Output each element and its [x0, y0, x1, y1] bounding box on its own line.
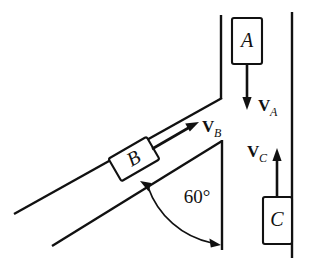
- velocity-vector-c-arrowhead: [272, 148, 281, 161]
- incline-angle-label: 60°: [184, 186, 211, 207]
- incline-angle-group: 60°: [140, 181, 221, 248]
- velocity-vector-b-arrowhead: [185, 122, 199, 132]
- incline-angle-arrowhead-end: [209, 239, 221, 248]
- physics-diagram-canvas: A V A B V B V C: [0, 0, 318, 267]
- velocity-vector-b-shaft: [152, 127, 190, 149]
- block-b-group: B: [108, 137, 159, 182]
- velocity-vector-a-arrowhead: [242, 97, 251, 110]
- velocity-vector-b-group: V B: [152, 117, 222, 149]
- block-a-label: A: [239, 29, 254, 51]
- velocity-vector-c-subscript: C: [259, 151, 268, 165]
- block-c-group: C: [263, 197, 292, 244]
- block-a-group: A: [232, 18, 262, 64]
- physics-diagram-container: A V A B V B V C: [0, 0, 318, 267]
- block-c-label: C: [270, 208, 284, 230]
- velocity-vector-b-subscript: B: [214, 126, 222, 140]
- velocity-vector-c-group: V C: [247, 142, 282, 196]
- velocity-vector-a-group: V A: [242, 64, 278, 119]
- velocity-vector-a-subscript: A: [269, 105, 278, 119]
